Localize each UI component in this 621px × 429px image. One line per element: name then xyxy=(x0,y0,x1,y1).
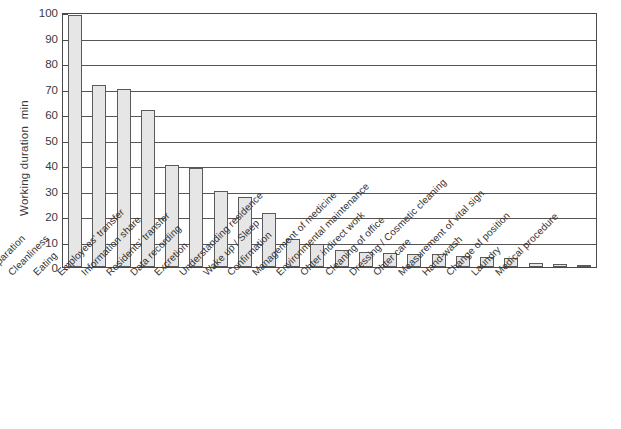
bar[interactable] xyxy=(529,263,543,267)
y-tick-label: 70 xyxy=(45,84,58,96)
y-tick-label: 100 xyxy=(39,7,58,19)
bar[interactable] xyxy=(577,265,591,267)
bar-slot xyxy=(572,14,596,267)
y-tick-label: 40 xyxy=(45,160,58,172)
y-axis-tick-labels: 1009080706050403020100 xyxy=(22,8,58,270)
y-tick-label: 30 xyxy=(45,186,58,198)
bar[interactable] xyxy=(553,264,567,267)
x-axis-tick-labels: PreparationCleanlinessEatingEmployees' t… xyxy=(0,270,509,420)
bar-slot xyxy=(451,14,475,267)
bar-slot xyxy=(402,14,426,267)
y-tick-label: 90 xyxy=(45,33,58,45)
y-tick-label: 50 xyxy=(45,135,58,147)
y-tick-label: 60 xyxy=(45,109,58,121)
bar-slot xyxy=(548,14,572,267)
bar-slot xyxy=(184,14,208,267)
bar[interactable] xyxy=(68,15,82,267)
bar-slot xyxy=(63,14,87,267)
bar-slot xyxy=(499,14,523,267)
bar-chart: Working duration min 1009080706050403020… xyxy=(0,0,621,429)
y-tick-label: 80 xyxy=(45,58,58,70)
y-tick-label: 20 xyxy=(45,211,58,223)
bar-slot xyxy=(257,14,281,267)
